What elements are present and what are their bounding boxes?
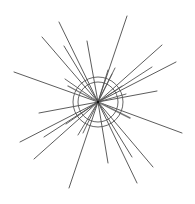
center-point bbox=[97, 101, 99, 103]
starburst-drawing bbox=[0, 0, 195, 204]
starburst-figure bbox=[0, 0, 195, 204]
ray-line bbox=[98, 102, 108, 163]
